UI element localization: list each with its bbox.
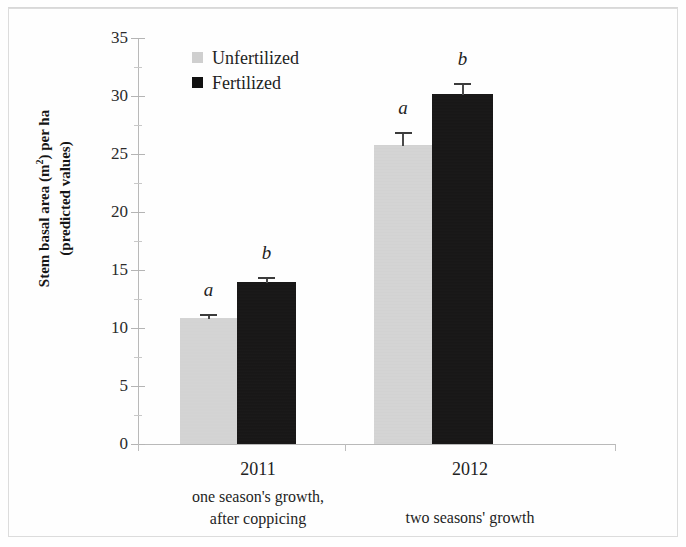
bar-2012-unfertilized [374,145,432,444]
y-tick-10 [131,328,145,329]
y-minor-tick [134,183,142,184]
bar-2012-fertilized [432,94,493,444]
y-tick-label-text: 35 [92,29,128,46]
legend-label-unfertilized: Unfertilized [212,49,299,67]
y-tick-label-text: 25 [92,145,128,162]
x-group-caption-2012: two seasons' growth [355,507,585,529]
x-axis-tick-middle [345,444,346,451]
y-minor-tick [134,67,142,68]
x-group-year-2011: 2011 [168,458,348,480]
bar-2011-unfertilized [180,318,237,444]
legend-label-fertilized: Fertilized [212,74,281,92]
y-tick-label-20: 20 [88,203,128,220]
x-group-label-2012: 2012 two seasons' growth [355,458,585,529]
bar-2011-fertilized [237,282,296,444]
x-axis-line [138,444,616,445]
x-axis-tick-left [138,444,139,451]
y-tick-35 [131,38,145,39]
y-tick-label-text: 30 [92,87,128,104]
legend-item-fertilized: Fertilized [192,70,299,95]
error-bar-stem [402,132,404,146]
significance-letter-2012-unfertilized: a [383,98,423,117]
y-tick-label-text: 15 [92,261,128,278]
y-tick-label-25: 25 [88,145,128,162]
bar-chart-plot: 05101520253035 aabb Stem basal area (m2)… [0,0,686,547]
error-bar-cap [258,277,275,279]
x-group-caption-2012-line1: two seasons' growth [355,507,585,529]
y-tick-label-30: 30 [88,87,128,104]
y-tick-label-0: 0 [88,435,128,452]
y-tick-25 [131,154,145,155]
y-tick-5 [131,386,145,387]
y-minor-tick [134,415,142,416]
chart-page: 05101520253035 aabb Stem basal area (m2)… [0,0,686,547]
significance-letter-2012-fertilized: b [443,49,483,68]
y-tick-label-35: 35 [88,29,128,46]
y-tick-label-text: 10 [92,319,128,336]
legend-item-unfertilized: Unfertilized [192,45,299,70]
y-tick-30 [131,96,145,97]
y-tick-15 [131,270,145,271]
error-bar-cap [200,314,217,316]
significance-letter-2011-fertilized: b [247,243,287,262]
y-axis-title-line1: Stem basal area (m2) per ha [36,110,52,287]
x-group-caption-2011-line1: one season's growth, [168,486,348,508]
y-tick-20 [131,212,145,213]
error-bar-2012-fertilized [454,83,471,94]
x-group-label-2011: 2011 one season's growth, after coppicin… [168,458,348,530]
x-axis-tick-right [615,444,616,451]
y-minor-tick [134,299,142,300]
y-minor-tick [134,357,142,358]
error-bar-cap [395,132,412,134]
error-bar-2011-fertilized [258,277,275,283]
x-group-caption-2011-line2: after coppicing [168,508,348,530]
y-minor-tick [134,241,142,242]
y-tick-label-10: 10 [88,319,128,336]
x-group-year-2012: 2012 [355,458,585,480]
y-minor-tick [134,125,142,126]
y-tick-label-5: 5 [88,377,128,394]
y-tick-label-text: 20 [92,203,128,220]
error-bar-2012-unfertilized [395,132,412,146]
y-tick-label-text: 0 [92,435,128,452]
x-group-caption-2011: one season's growth, after coppicing [168,486,348,530]
y-axis-title: Stem basal area (m2) per ha (predicted v… [29,84,76,314]
legend-swatch-fertilized-icon [192,77,203,88]
error-bar-2011-unfertilized [200,314,217,319]
chart-legend: Unfertilized Fertilized [192,45,299,95]
y-tick-label-15: 15 [88,261,128,278]
y-axis-title-line2: (predicted values) [55,84,76,314]
error-bar-cap [454,83,471,85]
y-tick-label-text: 5 [92,377,128,394]
significance-letter-2011-unfertilized: a [189,280,229,299]
legend-swatch-unfertilized-icon [192,52,203,63]
y-axis-title-superscript: 2 [34,160,45,165]
